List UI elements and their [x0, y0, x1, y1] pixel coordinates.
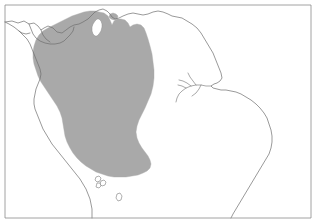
range-map-figure	[0, 0, 316, 224]
island-outline-4	[116, 193, 122, 201]
map-canvas	[0, 0, 316, 224]
island-outline-1	[95, 176, 101, 182]
